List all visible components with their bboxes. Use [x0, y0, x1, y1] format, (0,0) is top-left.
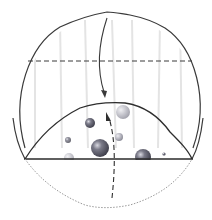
- inflow-arrow: [99, 18, 107, 92]
- arrowhead-up-icon: [106, 112, 111, 121]
- upward-dashed-arrow: [109, 118, 114, 198]
- circle-dome-diagram: [0, 0, 212, 220]
- background-streaks: [35, 20, 182, 150]
- outer-circle-side-right: [192, 118, 203, 159]
- outer-circle-outline: [20, 12, 200, 148]
- arrowhead-down-icon: [101, 90, 107, 98]
